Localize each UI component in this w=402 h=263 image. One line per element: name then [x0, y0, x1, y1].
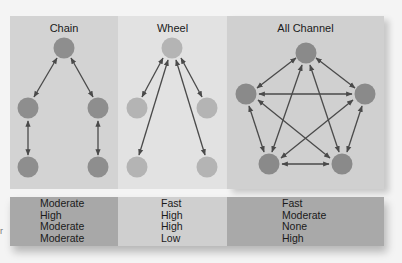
all-channel-value: High	[282, 233, 384, 245]
wheel-value: Low	[161, 233, 227, 245]
node	[54, 38, 75, 59]
chain-value: Moderate	[40, 221, 118, 233]
node	[18, 157, 39, 178]
chain-arrows	[28, 58, 98, 155]
wheel-characteristics: Fast High High Low	[118, 197, 227, 246]
node	[332, 154, 353, 175]
node	[259, 154, 280, 175]
chain-characteristics: Moderate High Moderate Moderate	[10, 197, 118, 246]
node	[197, 157, 218, 178]
all-channel-nodes	[236, 43, 376, 175]
node	[296, 43, 317, 64]
node	[355, 84, 376, 105]
chain-value: Moderate	[40, 233, 118, 245]
chain-value: Moderate	[40, 198, 118, 210]
all-channel-characteristics: Fast Moderate None High	[227, 197, 384, 246]
all-channel-arrows	[249, 58, 362, 164]
node	[88, 98, 109, 119]
all-channel-value: None	[282, 221, 384, 233]
characteristics-table: Moderate High Moderate Moderate Fast Hig…	[10, 197, 384, 246]
node	[197, 98, 218, 119]
node	[236, 84, 257, 105]
all-channel-value: Fast	[282, 198, 384, 210]
node	[127, 98, 148, 119]
cropped-label-fragment: r	[0, 226, 4, 236]
node	[162, 38, 183, 59]
node	[18, 98, 39, 119]
wheel-value: Fast	[161, 198, 227, 210]
wheel-nodes	[127, 38, 218, 178]
node	[88, 157, 109, 178]
chain-nodes	[18, 38, 109, 178]
wheel-value: High	[161, 221, 227, 233]
node	[127, 157, 148, 178]
wheel-arrows	[139, 58, 205, 155]
